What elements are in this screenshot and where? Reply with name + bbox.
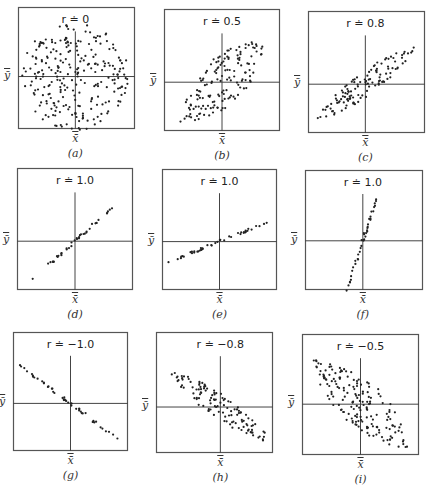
- data-point: [198, 118, 200, 120]
- data-point: [356, 380, 358, 382]
- data-point: [112, 47, 114, 49]
- data-point: [344, 92, 346, 94]
- data-point: [224, 69, 226, 71]
- data-point: [223, 239, 225, 241]
- data-point: [391, 424, 393, 426]
- data-point: [226, 420, 228, 422]
- data-point: [215, 72, 217, 74]
- data-point: [114, 49, 116, 51]
- data-point: [52, 391, 54, 393]
- data-point: [49, 84, 51, 86]
- data-point: [39, 105, 41, 107]
- data-point: [69, 50, 71, 52]
- data-point: [190, 104, 192, 106]
- data-point: [324, 109, 326, 111]
- data-point: [94, 123, 96, 125]
- data-point: [180, 386, 182, 388]
- data-point: [367, 391, 369, 393]
- data-point: [54, 42, 56, 44]
- data-point: [378, 429, 380, 431]
- data-point: [362, 391, 364, 393]
- data-point: [70, 245, 72, 247]
- data-point: [66, 123, 68, 125]
- data-point: [369, 218, 371, 220]
- data-point: [346, 93, 348, 95]
- correlation-label: r ≐ −1.0: [47, 338, 94, 351]
- data-point: [50, 51, 52, 53]
- data-point: [347, 284, 349, 286]
- data-point: [45, 47, 47, 49]
- data-point: [90, 100, 92, 102]
- data-point: [216, 107, 218, 109]
- data-point: [375, 198, 377, 200]
- data-point: [350, 406, 352, 408]
- data-point: [356, 76, 358, 78]
- data-point: [189, 251, 191, 253]
- data-point: [205, 72, 207, 74]
- data-point: [367, 83, 369, 85]
- data-point: [388, 411, 390, 413]
- data-point: [49, 261, 51, 263]
- data-point: [50, 69, 52, 71]
- data-point: [52, 48, 54, 50]
- data-point: [371, 82, 373, 84]
- data-point: [248, 63, 250, 65]
- data-point: [206, 388, 208, 390]
- data-point: [373, 65, 375, 67]
- data-point: [228, 414, 230, 416]
- data-point: [227, 400, 229, 402]
- data-point: [223, 65, 225, 67]
- data-point: [220, 64, 222, 66]
- data-point: [100, 81, 102, 83]
- correlation-label: r ≐ 0.8: [346, 17, 384, 30]
- data-point: [350, 94, 352, 96]
- data-point: [243, 87, 245, 89]
- data-point: [366, 416, 368, 418]
- data-point: [335, 98, 337, 100]
- data-point: [345, 104, 347, 106]
- data-point: [200, 80, 202, 82]
- data-point: [342, 95, 344, 97]
- data-point: [360, 245, 362, 247]
- data-point: [386, 439, 388, 441]
- data-point: [251, 429, 253, 431]
- data-point: [59, 86, 61, 88]
- data-point: [386, 419, 388, 421]
- data-point: [243, 420, 245, 422]
- data-point: [356, 405, 358, 407]
- data-point: [51, 81, 53, 83]
- data-point: [196, 89, 198, 91]
- data-point: [343, 101, 345, 103]
- data-point: [112, 65, 114, 67]
- data-point: [200, 108, 202, 110]
- data-point: [82, 412, 84, 414]
- data-point: [384, 58, 386, 60]
- data-point: [356, 382, 358, 384]
- data-point: [51, 41, 53, 43]
- data-point: [234, 98, 236, 100]
- data-point: [23, 367, 25, 369]
- data-point: [212, 101, 214, 103]
- data-point: [356, 385, 358, 387]
- data-point: [331, 110, 333, 112]
- data-point: [219, 239, 221, 241]
- data-point: [332, 396, 334, 398]
- data-point: [77, 54, 79, 56]
- data-point: [122, 67, 124, 69]
- data-point: [380, 63, 382, 65]
- data-point: [247, 228, 249, 230]
- data-point: [68, 106, 70, 108]
- data-point: [73, 29, 75, 31]
- data-point: [230, 414, 232, 416]
- data-point: [195, 106, 197, 108]
- data-point: [357, 258, 359, 260]
- data-point: [247, 430, 249, 432]
- data-point: [369, 402, 371, 404]
- data-point: [190, 381, 192, 383]
- data-point: [343, 387, 345, 389]
- data-point: [60, 91, 62, 93]
- data-point: [335, 383, 337, 385]
- data-point: [387, 416, 389, 418]
- data-point: [76, 45, 78, 47]
- data-point: [353, 388, 355, 390]
